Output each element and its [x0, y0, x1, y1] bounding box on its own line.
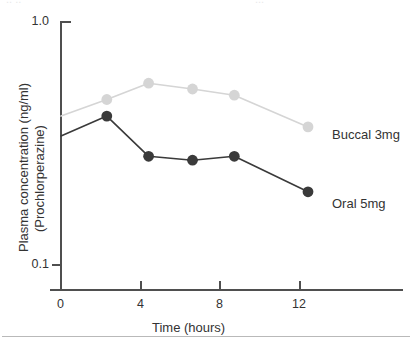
- chart-plot-area: 1.0 0.1 0 4 8 12 Time (hours) Plasma con…: [0, 0, 412, 348]
- series-oral-5mg-line: [61, 116, 308, 192]
- series-buccal-3mg: [61, 78, 313, 133]
- data-point-buccal-4: [229, 90, 240, 101]
- data-point-oral-3: [187, 155, 198, 166]
- series-label-buccal-3mg: Buccal 3mg: [332, 127, 400, 142]
- data-point-buccal-1: [101, 94, 112, 105]
- x-tick-label-8: 8: [216, 298, 223, 311]
- y-tick-label-0.1: 0.1: [17, 258, 49, 271]
- data-point-oral-1: [101, 111, 112, 122]
- data-point-oral-2: [143, 151, 154, 162]
- chart-svg: [0, 0, 412, 348]
- figure-container: .. .. ...: [0, 0, 412, 348]
- x-tick-label-0: 0: [57, 298, 64, 311]
- x-tick-label-12: 12: [292, 298, 306, 311]
- y-axis-title-line2: (Prochlorperazine): [32, 125, 47, 232]
- series-oral-5mg: [61, 111, 313, 198]
- data-point-buccal-2: [143, 78, 154, 89]
- data-point-buccal-3: [187, 84, 198, 95]
- y-tick-label-1.0: 1.0: [17, 15, 49, 28]
- y-axis-title-line1: Plasma concentration (ng/ml): [16, 83, 31, 252]
- x-axis-title: Time (hours): [152, 320, 225, 335]
- data-point-oral-4: [229, 151, 240, 162]
- data-point-oral-5: [303, 186, 314, 197]
- series-label-oral-5mg: Oral 5mg: [332, 196, 385, 211]
- footer-divider: [2, 336, 410, 337]
- x-tick-label-4: 4: [137, 298, 144, 311]
- data-point-buccal-5: [303, 122, 314, 133]
